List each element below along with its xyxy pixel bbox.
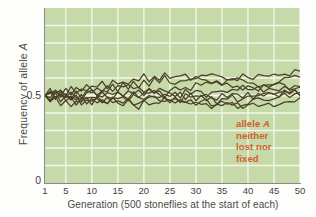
y-axis-label-text: Frequency of allele	[17, 50, 29, 145]
data-lines	[45, 70, 300, 110]
annotation-line-1-text: allele	[236, 118, 263, 129]
annotation-line-1-allele: A	[263, 118, 270, 129]
annotation-line-1: allele A	[236, 118, 272, 130]
annotation-line-4: fixed	[236, 153, 272, 165]
x-tick-10: 10	[87, 185, 98, 196]
x-tick-50: 50	[295, 185, 306, 196]
figure-root: 0.5 0 Frequency of allele A 151015202530…	[0, 0, 316, 217]
x-tick-25: 25	[165, 185, 176, 196]
y-axis-label-allele: A	[17, 43, 29, 50]
y-axis-label: Frequency of allele A	[17, 9, 29, 179]
annotation-line-2: neither	[236, 130, 272, 142]
x-tick-5: 5	[63, 185, 68, 196]
x-tick-30: 30	[191, 185, 202, 196]
x-tick-20: 20	[139, 185, 150, 196]
x-tick-45: 45	[269, 185, 280, 196]
y-tick-0: 0	[35, 174, 41, 186]
x-tick-35: 35	[217, 185, 228, 196]
data-line	[45, 70, 300, 98]
x-tick-1: 1	[42, 185, 47, 196]
annotation-allele-not-fixed: allele A neither lost nor fixed	[236, 118, 272, 164]
x-tick-15: 15	[113, 185, 124, 196]
annotation-line-3: lost nor	[236, 141, 272, 153]
x-tick-40: 40	[243, 185, 254, 196]
x-axis-label: Generation (500 stoneflies at the start …	[45, 199, 301, 210]
